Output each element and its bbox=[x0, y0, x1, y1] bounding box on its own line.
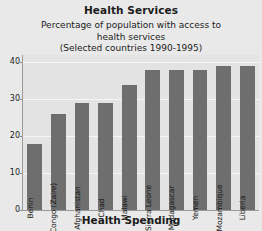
chart-subtitle-line-2: health services bbox=[0, 32, 262, 44]
bar-group: Benin bbox=[27, 55, 42, 210]
bar-group: Afghanistan bbox=[75, 55, 90, 210]
plot-area: BeninCongo (Zaire)AfghanistanChadMalawiS… bbox=[22, 55, 259, 211]
bar bbox=[75, 103, 90, 210]
y-axis-tick-label: 10 bbox=[2, 169, 20, 177]
bar bbox=[193, 70, 208, 210]
bar bbox=[122, 85, 137, 210]
bar bbox=[145, 70, 160, 210]
health-services-bar-chart: Health Services Percentage of population… bbox=[0, 0, 262, 231]
bar-group: Malawi bbox=[122, 55, 137, 210]
bars-layer: BeninCongo (Zaire)AfghanistanChadMalawiS… bbox=[23, 55, 259, 210]
y-axis-tick-label: 20 bbox=[2, 132, 20, 140]
bar-group: Liberia bbox=[240, 55, 255, 210]
bar-group: Madagascar bbox=[169, 55, 184, 210]
bar-group: Mozambique bbox=[216, 55, 231, 210]
y-axis-tick-label: 0 bbox=[2, 206, 20, 214]
x-axis-title: Health Spending bbox=[0, 214, 262, 226]
y-axis-tick-label: 40 bbox=[2, 58, 20, 66]
page-title: Health Services bbox=[0, 4, 262, 17]
bar bbox=[240, 66, 255, 210]
bar-group: Chad bbox=[98, 55, 113, 210]
bar bbox=[98, 103, 113, 210]
bar bbox=[216, 66, 231, 210]
chart-subtitle: Percentage of population with access to … bbox=[0, 20, 262, 55]
y-axis-tick-label: 30 bbox=[2, 95, 20, 103]
chart-title-block: Health Services Percentage of population… bbox=[0, 4, 262, 55]
y-axis: 010203040 bbox=[0, 55, 20, 211]
bar-group: Yemen bbox=[193, 55, 208, 210]
bar-group: Sierra Leone bbox=[145, 55, 160, 210]
chart-subtitle-line-3: (Selected countries 1990-1995) bbox=[0, 43, 262, 55]
bar bbox=[51, 114, 66, 210]
bar bbox=[169, 70, 184, 210]
bar bbox=[27, 144, 42, 210]
chart-subtitle-line-1: Percentage of population with access to bbox=[0, 20, 262, 32]
bar-group: Congo (Zaire) bbox=[51, 55, 66, 210]
